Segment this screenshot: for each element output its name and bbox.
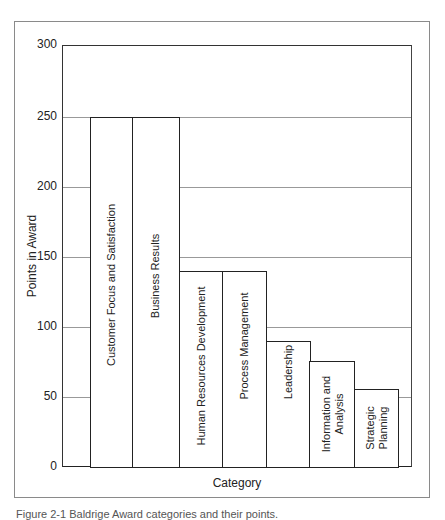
y-tick-label: 50: [27, 389, 57, 403]
bar-label: Strategic Planning: [364, 406, 389, 449]
bar-label: Information and Analysis: [320, 376, 345, 452]
y-tick-label: 300: [27, 37, 57, 51]
y-tick-label: 250: [27, 109, 57, 123]
x-axis-title: Category: [213, 476, 262, 490]
y-tick-label: 0: [27, 459, 57, 473]
bar-label: Customer Focus and Satisfaction: [105, 204, 118, 366]
bar-label: Process Management: [238, 293, 251, 400]
y-tick-label: 200: [27, 179, 57, 193]
y-tick-label: 150: [27, 249, 57, 263]
bar-label: Human Resources Development: [195, 287, 208, 446]
bar-label: Leadership: [282, 345, 295, 399]
bar-label: Business Results: [149, 234, 162, 318]
y-tick-label: 100: [27, 319, 57, 333]
figure-caption: Figure 2-1 Baldrige Award categories and…: [16, 508, 278, 520]
